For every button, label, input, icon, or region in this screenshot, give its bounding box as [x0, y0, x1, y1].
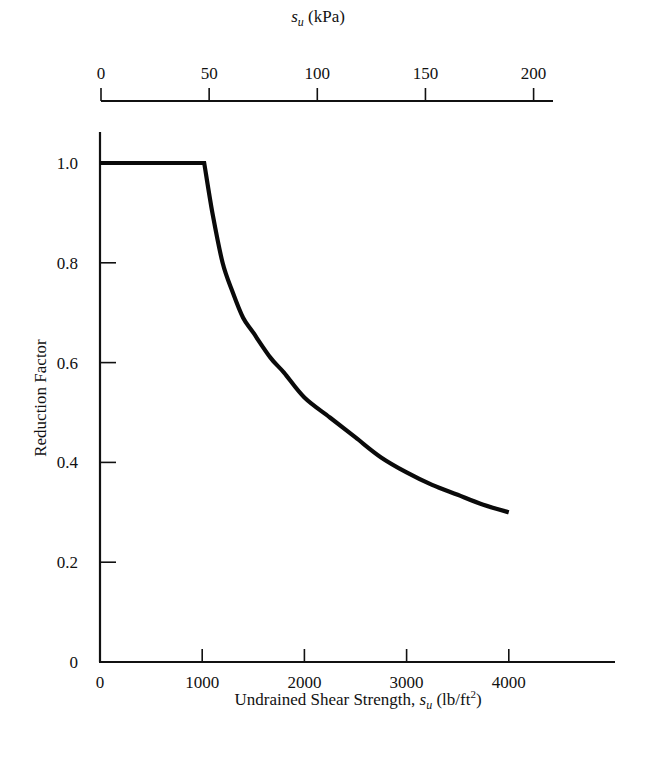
y-tick-label: 0.8: [57, 254, 78, 273]
top-tick-label: 100: [305, 64, 331, 83]
top-tick-label: 200: [521, 64, 547, 83]
x-axis-label: Undrained Shear Strength, su (lb/ft2): [234, 688, 481, 712]
top-axis-label: su (kPa): [291, 7, 345, 29]
y-axis-ticks: 00.20.40.60.81.0: [57, 154, 116, 672]
top-tick-label: 150: [413, 64, 439, 83]
top-axis-kpa: su (kPa) 050100150200: [97, 7, 553, 101]
top-axis-ticks: 050100150200: [97, 64, 547, 101]
y-tick-label: 0.4: [57, 453, 79, 472]
y-tick-label: 0: [70, 653, 79, 672]
x-tick-label: 1000: [185, 673, 219, 692]
x-tick-label: 0: [96, 673, 105, 692]
y-axis-label: Reduction Factor: [31, 339, 50, 457]
top-tick-label: 50: [201, 64, 218, 83]
y-tick-label: 1.0: [57, 154, 78, 173]
y-tick-label: 0.6: [57, 354, 78, 373]
y-tick-label: 0.2: [57, 553, 78, 572]
main-axes: 01000200030004000 00.20.40.60.81.0: [57, 132, 615, 692]
top-tick-label: 0: [97, 64, 106, 83]
x-tick-label: 4000: [492, 673, 526, 692]
reduction-factor-curve: [100, 163, 509, 512]
chart: su (kPa) 050100150200 01000200030004000 …: [0, 0, 646, 764]
x-axis-ticks: 01000200030004000: [96, 649, 526, 692]
